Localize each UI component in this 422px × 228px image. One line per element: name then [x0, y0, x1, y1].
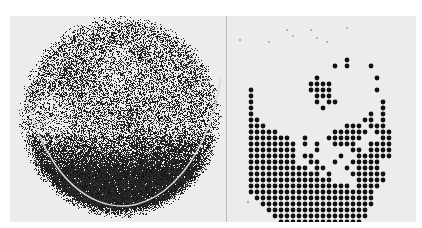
figure: Two-panel grayscale figure: left a stipp… [0, 0, 422, 228]
dot-matrix-panel [227, 16, 416, 222]
stipple-scan-panel [10, 16, 226, 222]
dot-matrix-image [227, 16, 416, 222]
stipple-scan-image [10, 16, 226, 222]
